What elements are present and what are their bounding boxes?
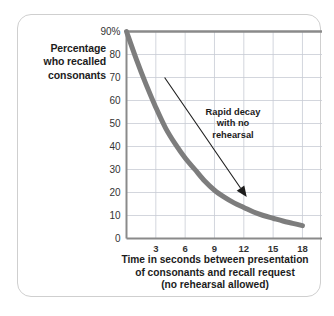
y-tick-label: 70 [83, 73, 121, 83]
y-tick-label: 0 [83, 234, 121, 244]
x-axis-title-line-2: of consonants and recall request [100, 267, 330, 280]
x-tick-label: 9 [202, 244, 226, 254]
x-tick-label: 15 [261, 244, 285, 254]
annotation-line-1: Rapid decay [196, 107, 270, 118]
y-tick-label: 40 [83, 142, 121, 152]
y-tick-label: 10 [83, 211, 121, 221]
y-tick-label: 80 [83, 50, 121, 60]
x-tick-label: 18 [290, 244, 314, 254]
x-tick-label: 12 [232, 244, 256, 254]
chart-figure: Percentage who recalled consonants 01020… [0, 0, 334, 316]
y-tick-label: 30 [83, 165, 121, 175]
x-tick-label: 3 [144, 244, 168, 254]
x-axis-title: Time in seconds between presentation of … [100, 254, 330, 292]
y-tick-label: 90% [83, 27, 121, 37]
annotation-label: Rapid decay with no rehearsal [196, 107, 270, 141]
y-tick-label: 50 [83, 119, 121, 129]
y-tick-label: 20 [83, 188, 121, 198]
y-tick-label: 60 [83, 96, 121, 106]
x-axis-title-line-3: (no rehearsal allowed) [100, 279, 330, 292]
x-axis-title-line-1: Time in seconds between presentation [100, 254, 330, 267]
annotation-line-3: rehearsal [196, 130, 270, 141]
annotation-line-2: with no [196, 118, 270, 129]
x-tick-label: 6 [173, 244, 197, 254]
